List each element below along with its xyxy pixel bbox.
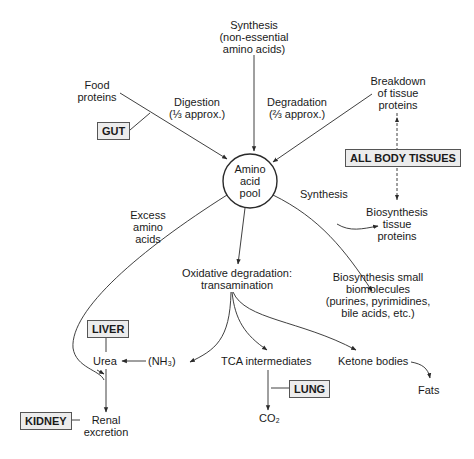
organ-lung: LUNG [289, 380, 330, 398]
text-line: Digestion [165, 96, 229, 108]
fats-label: Fats [418, 384, 439, 396]
text-line: bile acids, etc.) [318, 307, 438, 319]
text-line: Breakdown [368, 75, 428, 87]
tca-intermediates-label: TCA intermediates [221, 355, 311, 367]
text-line: Oxidative degradation: [172, 267, 302, 279]
renal-excretion-label: Renal excretion [82, 414, 130, 438]
digestion-label: Digestion (⅓ approx.) [165, 96, 229, 120]
nh3-label: (NH₃) [148, 355, 176, 367]
text-line: acids [126, 233, 170, 245]
synthesis-nonessential-label: Synthesis (non-essential amino acids) [212, 19, 296, 55]
organ-gut: GUT [97, 122, 130, 140]
text-line: Degradation [262, 96, 332, 108]
text-line: of tissue [368, 87, 428, 99]
synthesis-label: Synthesis [300, 188, 348, 200]
text-line: proteins [362, 230, 432, 242]
text-line: acid [226, 175, 274, 187]
text-line: excretion [82, 426, 130, 438]
text-line: Synthesis [212, 19, 296, 31]
text-line: biomolecules [318, 283, 438, 295]
text-line: amino [126, 221, 170, 233]
text-line: (non-essential [212, 31, 296, 43]
text-line: pool [226, 187, 274, 199]
organ-liver: LIVER [87, 320, 129, 338]
ketone-bodies-label: Ketone bodies [338, 355, 408, 367]
text-line: Renal [82, 414, 130, 426]
biosynthesis-small-label: Biosynthesis small biomolecules (purines… [318, 271, 438, 319]
amino-acid-pool-label: Amino acid pool [226, 163, 274, 199]
co2-label: CO₂ [259, 412, 280, 424]
text-line: tissue [362, 218, 432, 230]
text-line: proteins [368, 99, 428, 111]
oxidative-degradation-label: Oxidative degradation: transamination [172, 267, 302, 291]
text-line: (purines, pyrimidines, [318, 295, 438, 307]
text-line: transamination [172, 279, 302, 291]
text-line: Amino [226, 163, 274, 175]
degradation-label: Degradation (⅔ approx.) [262, 96, 332, 120]
breakdown-tissue-label: Breakdown of tissue proteins [368, 75, 428, 111]
text-line: Biosynthesis [362, 206, 432, 218]
food-proteins-label: Food proteins [72, 79, 122, 103]
urea-label: Urea [93, 355, 117, 367]
organ-kidney: KIDNEY [20, 412, 72, 430]
text-line: (⅓ approx.) [165, 108, 229, 120]
text-line: Biosynthesis small [318, 271, 438, 283]
text-line: amino acids) [212, 43, 296, 55]
text-line: Food [72, 79, 122, 91]
biosynthesis-tissue-label: Biosynthesis tissue proteins [362, 206, 432, 242]
organ-all-body-tissues: ALL BODY TISSUES [345, 149, 461, 167]
text-line: proteins [72, 91, 122, 103]
excess-amino-acids-label: Excess amino acids [126, 209, 170, 245]
text-line: Excess [126, 209, 170, 221]
text-line: (⅔ approx.) [262, 108, 332, 120]
